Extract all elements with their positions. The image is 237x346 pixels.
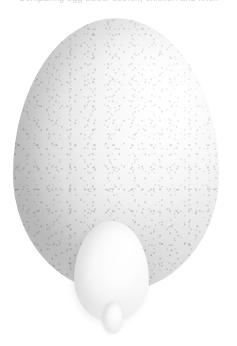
tiny-egg-shading (103, 301, 123, 333)
caption-strip: Comparing egg sizes: ostrich, chicken an… (0, 0, 237, 5)
egg-comparison-photo: Comparing egg sizes: ostrich, chicken an… (0, 0, 237, 346)
tiny-egg (103, 301, 123, 333)
caption-text: Comparing egg sizes: ostrich, chicken an… (0, 0, 237, 4)
